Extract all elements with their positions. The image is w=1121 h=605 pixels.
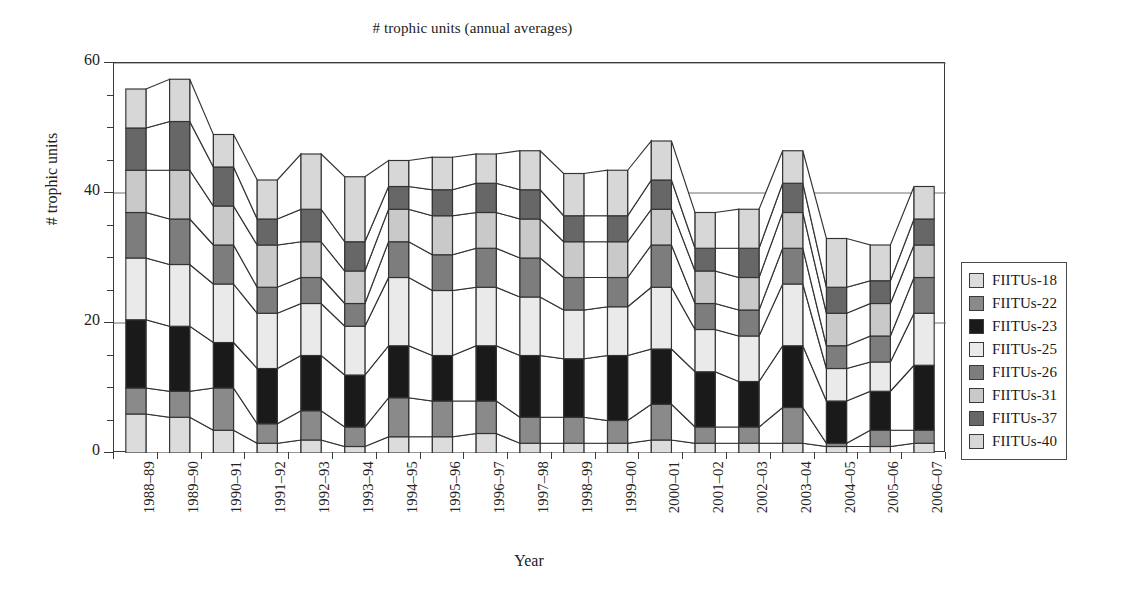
- plot-area: [113, 62, 945, 452]
- legend-swatch-icon: [969, 434, 984, 449]
- y-tick-minor: [107, 387, 113, 388]
- x-tick: [332, 452, 333, 459]
- x-tick: [726, 452, 727, 459]
- x-tick: [638, 452, 639, 459]
- x-tick: [551, 452, 552, 459]
- legend-item[interactable]: FIITUs-23: [969, 315, 1057, 338]
- y-tick-minor: [107, 160, 113, 161]
- x-tick-label: 1990–91: [228, 461, 245, 513]
- x-tick-label: 1992–93: [316, 461, 333, 513]
- x-tick-label: 1989–90: [185, 461, 202, 513]
- x-tick: [157, 452, 158, 459]
- chart-title: # trophic units (annual averages): [0, 20, 945, 37]
- stacked-area-series: [114, 63, 946, 453]
- y-tick-minor: [107, 420, 113, 421]
- legend-item[interactable]: FIITUs-26: [969, 361, 1057, 384]
- legend-item[interactable]: FIITUs-18: [969, 269, 1057, 292]
- y-tick-major: [104, 322, 113, 323]
- x-tick-label: 1999–00: [623, 461, 640, 513]
- legend-swatch-icon: [969, 296, 984, 311]
- y-tick-label: 60: [40, 51, 100, 69]
- x-tick: [770, 452, 771, 459]
- legend-item[interactable]: FIITUs-40: [969, 430, 1057, 453]
- legend-item-label: FIITUs-37: [992, 410, 1057, 427]
- legend-item[interactable]: FIITUs-37: [969, 407, 1057, 430]
- legend-item-label: FIITUs-31: [992, 387, 1057, 404]
- x-tick: [507, 452, 508, 459]
- legend-item[interactable]: FIITUs-31: [969, 384, 1057, 407]
- y-tick-minor: [107, 95, 113, 96]
- x-tick: [244, 452, 245, 459]
- y-tick-label: 20: [40, 311, 100, 329]
- legend-swatch-icon: [969, 411, 984, 426]
- legend-item-label: FIITUs-40: [992, 433, 1057, 450]
- x-tick: [682, 452, 683, 459]
- x-tick-label: 1998–99: [579, 461, 596, 513]
- x-tick-label: 1997–98: [535, 461, 552, 513]
- x-tick-label: 1996–97: [491, 461, 508, 513]
- plot-inner: [114, 63, 944, 451]
- x-tick: [945, 452, 946, 459]
- legend-item[interactable]: FIITUs-25: [969, 338, 1057, 361]
- x-tick: [595, 452, 596, 459]
- x-tick: [857, 452, 858, 459]
- x-axis-label: Year: [113, 552, 945, 570]
- y-tick-label: 40: [40, 181, 100, 199]
- x-tick-label: 2002–03: [754, 461, 771, 513]
- x-tick-label: 2004–05: [842, 461, 859, 513]
- x-tick-label: 2006–07: [929, 461, 946, 513]
- legend-swatch-icon: [969, 273, 984, 288]
- legend-swatch-icon: [969, 365, 984, 380]
- legend-swatch-icon: [969, 342, 984, 357]
- chart-container: # trophic units (annual averages) # trop…: [0, 0, 1121, 605]
- legend-item-label: FIITUs-22: [992, 295, 1057, 312]
- x-tick-label: 2000–01: [666, 461, 683, 513]
- x-tick-label: 1988–89: [141, 461, 158, 513]
- y-tick-label: 0: [40, 441, 100, 459]
- y-tick-major: [104, 452, 113, 453]
- legend-swatch-icon: [969, 319, 984, 334]
- x-tick: [901, 452, 902, 459]
- x-tick: [814, 452, 815, 459]
- legend-item[interactable]: FIITUs-22: [969, 292, 1057, 315]
- legend-item-label: FIITUs-25: [992, 341, 1057, 358]
- x-tick: [376, 452, 377, 459]
- legend-item-label: FIITUs-18: [992, 272, 1057, 289]
- chart-legend: FIITUs-18FIITUs-22FIITUs-23FIITUs-25FIIT…: [961, 262, 1067, 460]
- x-tick-label: 1994–95: [404, 461, 421, 513]
- y-tick-minor: [107, 127, 113, 128]
- x-tick-label: 2001–02: [710, 461, 727, 513]
- y-axis-label: # trophic units: [43, 89, 61, 269]
- x-tick: [113, 452, 114, 459]
- x-tick: [201, 452, 202, 459]
- x-tick: [463, 452, 464, 459]
- y-tick-major: [104, 192, 113, 193]
- y-tick-minor: [107, 355, 113, 356]
- legend-item-label: FIITUs-26: [992, 364, 1057, 381]
- y-tick-minor: [107, 257, 113, 258]
- x-tick: [288, 452, 289, 459]
- x-tick-label: 1993–94: [360, 461, 377, 513]
- legend-swatch-icon: [969, 388, 984, 403]
- legend-item-label: FIITUs-23: [992, 318, 1057, 335]
- x-tick-label: 2005–06: [885, 461, 902, 513]
- x-tick-label: 1995–96: [447, 461, 464, 513]
- x-tick-label: 2003–04: [798, 461, 815, 513]
- x-tick: [420, 452, 421, 459]
- x-tick-label: 1991–92: [272, 461, 289, 513]
- y-tick-minor: [107, 290, 113, 291]
- y-tick-major: [104, 62, 113, 63]
- y-tick-minor: [107, 225, 113, 226]
